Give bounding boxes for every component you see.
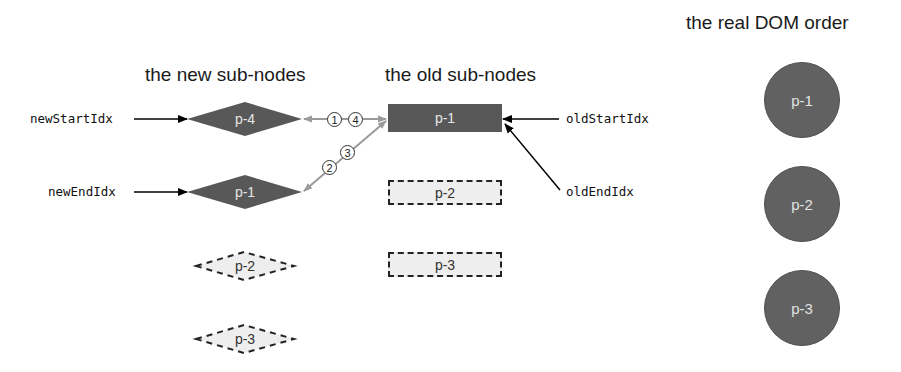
new-node-label-2: p-1 bbox=[235, 184, 255, 200]
arrow-old-end bbox=[505, 124, 560, 190]
dom-node-label-1: p-1 bbox=[791, 92, 813, 109]
dom-node-label-2: p-2 bbox=[791, 196, 813, 213]
old-node-label-3: p-3 bbox=[435, 257, 455, 273]
step-badge-3: 3 bbox=[340, 145, 355, 160]
old-node-p3: p-3 bbox=[388, 252, 502, 277]
step-badge-2: 2 bbox=[322, 160, 337, 175]
dom-node-label-3: p-3 bbox=[791, 300, 813, 317]
old-node-label-2: p-2 bbox=[435, 185, 455, 201]
new-node-label-4: p-3 bbox=[235, 331, 255, 347]
dom-node-p2: p-2 bbox=[764, 166, 840, 242]
new-node-label-1: p-4 bbox=[235, 111, 255, 127]
new-node-label-3: p-2 bbox=[235, 258, 255, 274]
old-node-p2: p-2 bbox=[388, 180, 502, 205]
dom-node-p3: p-3 bbox=[764, 270, 840, 346]
step-badge-1: 1 bbox=[327, 112, 342, 127]
dom-node-p1: p-1 bbox=[764, 62, 840, 138]
old-node-label-1: p-1 bbox=[435, 110, 455, 126]
old-node-p1: p-1 bbox=[388, 104, 502, 132]
step-badge-4: 4 bbox=[348, 112, 363, 127]
